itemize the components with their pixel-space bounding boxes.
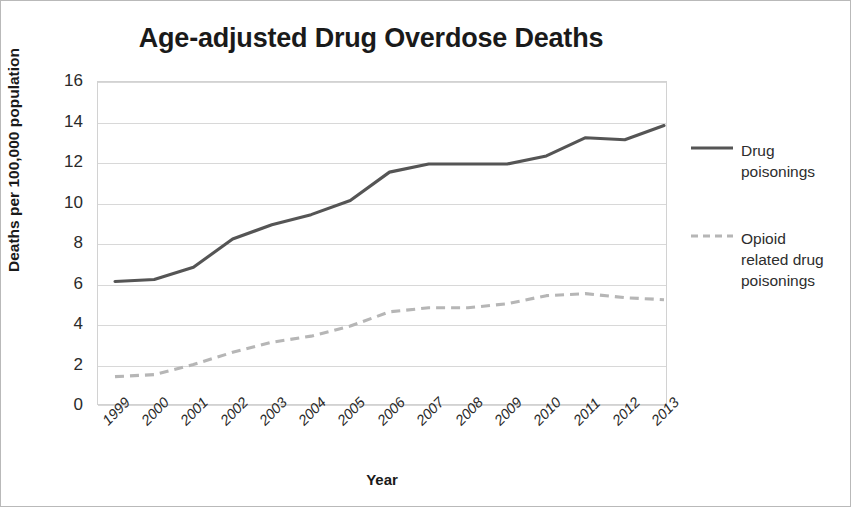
x-axis-title: Year <box>97 471 667 488</box>
gridline <box>98 123 666 124</box>
chart-screenshot: Age-adjusted Drug Overdose Deaths Deaths… <box>0 0 851 507</box>
y-tick-label: 14 <box>49 113 83 130</box>
y-tick-label: 10 <box>49 194 83 211</box>
y-tick-label: 0 <box>49 396 83 413</box>
y-axis-title: Deaths per 100,000 population <box>5 10 23 310</box>
legend-item-opioid-related: Opioid related drug poisonings <box>691 229 841 292</box>
legend-label: Drug poisonings <box>741 141 836 183</box>
legend-line-solid-icon <box>691 143 733 157</box>
gridline <box>98 204 666 205</box>
gridline <box>98 366 666 367</box>
plot-area <box>97 81 667 405</box>
legend-item-drug-poisonings: Drug poisonings <box>691 141 841 183</box>
gridline <box>98 244 666 245</box>
gridline <box>98 285 666 286</box>
gridline <box>98 82 666 83</box>
chart-title: Age-adjusted Drug Overdose Deaths <box>1 23 741 54</box>
y-tick-label: 2 <box>49 356 83 373</box>
gridline <box>98 325 666 326</box>
legend-line-dashed-icon <box>691 231 733 245</box>
y-tick-label: 4 <box>49 315 83 332</box>
chart-legend: Drug poisonings Opioid related drug pois… <box>691 141 841 338</box>
y-tick-label: 6 <box>49 275 83 292</box>
y-tick-label: 16 <box>49 72 83 89</box>
y-tick-label: 12 <box>49 153 83 170</box>
gridline <box>98 163 666 164</box>
y-tick-label: 8 <box>49 234 83 251</box>
legend-label: Opioid related drug poisonings <box>741 229 836 292</box>
